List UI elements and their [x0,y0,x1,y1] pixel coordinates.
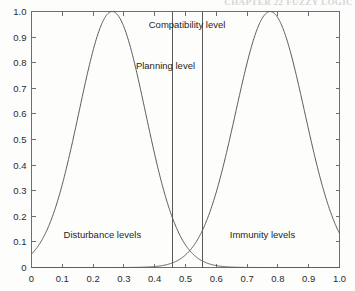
y-tick-label-6: 0.6 [13,108,26,119]
x-tick-label-7: 0.7 [240,273,253,284]
y-tick-label-8: 0.8 [13,57,26,68]
disturbance-levels-label: Disturbance levels [64,229,142,240]
y-tick-label-0: 0 [21,262,26,273]
y-tick-label-1: 0.1 [13,236,26,247]
x-tick-label-0: 0 [29,273,34,284]
x-tick-label-8: 0.8 [271,273,284,284]
membership-function-chart: 00.10.20.30.40.50.60.70.80.91.0 00.10.20… [0,0,355,291]
y-tick-label-3: 0.3 [13,185,26,196]
planning-level-label: Planning level [136,60,195,71]
figure-screenshot: CHAPTER 22 FUZZY LOGIC 00.10.20.30.40.50… [0,0,355,291]
y-tick-label-4: 0.4 [13,160,26,171]
x-tick-label-1: 0.1 [56,273,69,284]
x-tick-label-9: 0.9 [302,273,315,284]
y-tick-label-7: 0.7 [13,83,26,94]
annotation-group: Compatibility levelPlanning levelDisturb… [64,19,296,240]
x-axis-tick-labels: 00.10.20.30.40.50.60.70.80.91.0 [29,273,346,284]
y-tick-label-2: 0.2 [13,211,26,222]
y-tick-label-10: 1.0 [13,6,26,17]
y-tick-label-9: 0.9 [13,32,26,43]
x-tick-label-6: 0.6 [210,273,223,284]
compatibility-level-label: Compatibility level [149,19,226,30]
y-tick-label-5: 0.5 [13,134,26,145]
x-tick-label-4: 0.4 [148,273,161,284]
x-tick-label-3: 0.3 [117,273,130,284]
x-tick-label-5: 0.5 [179,273,192,284]
immunity-levels-label: Immunity levels [230,229,296,240]
x-tick-label-10: 1.0 [333,273,346,284]
x-tick-label-2: 0.2 [86,273,99,284]
y-axis-tick-labels: 00.10.20.30.40.50.60.70.80.91.0 [13,6,26,273]
